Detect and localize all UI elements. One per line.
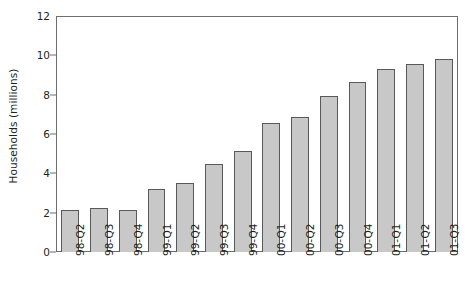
x-axis-tick-label: 99-Q1	[161, 224, 173, 256]
bar-slot	[61, 16, 79, 252]
y-axis-tick-label: 8	[26, 89, 50, 101]
y-axis-tick-labels: 024681012	[26, 0, 50, 252]
x-axis-tick-label-text: 01-Q1	[390, 224, 402, 256]
x-axis-tick-label-text: 99-Q3	[218, 224, 230, 256]
y-axis-tick-label: 4	[26, 167, 50, 179]
x-axis-tick-labels: 98-Q298-Q398-Q499-Q199-Q299-Q399-Q400-Q1…	[56, 252, 458, 304]
bar-slot	[291, 16, 309, 252]
y-axis-title: Households (millions)	[0, 0, 26, 252]
x-axis-tick-label-text: 99-Q4	[247, 224, 259, 256]
bar-slot	[349, 16, 367, 252]
x-axis-tick-label-text: 98-Q4	[132, 224, 144, 256]
x-axis-tick-label: 01-Q1	[390, 224, 402, 256]
bar-slot	[176, 16, 194, 252]
x-axis-tick-label: 98-Q2	[74, 224, 86, 256]
x-axis-tick-label-text: 00-Q3	[333, 224, 345, 256]
bar-slot	[406, 16, 424, 252]
x-axis-tick-label: 99-Q3	[218, 224, 230, 256]
x-axis-tick-label: 98-Q3	[103, 224, 115, 256]
x-axis-tick-label: 00-Q3	[333, 224, 345, 256]
bar-slot	[320, 16, 338, 252]
bar-slot	[205, 16, 223, 252]
bar-slot	[148, 16, 166, 252]
x-axis-tick-label: 00-Q1	[275, 224, 287, 256]
x-axis-tick-label-text: 01-Q3	[448, 224, 460, 256]
bar-slot	[435, 16, 453, 252]
x-axis-tick-label-text: 01-Q2	[419, 224, 431, 256]
bar-slot	[262, 16, 280, 252]
y-axis-tick-label: 2	[26, 207, 50, 219]
x-axis-tick-label: 00-Q2	[304, 224, 316, 256]
x-axis-tick-label: 00-Q4	[362, 224, 374, 256]
bar-chart-figure: Households (millions) 024681012 98-Q298-…	[0, 0, 469, 304]
x-axis-tick-label-text: 00-Q2	[304, 224, 316, 256]
x-axis-tick-label: 01-Q2	[419, 224, 431, 256]
y-axis-tick-label: 10	[26, 49, 50, 61]
x-axis-tick-label: 01-Q3	[448, 224, 460, 256]
bars-area	[56, 16, 458, 252]
y-axis-tick-label: 0	[26, 246, 50, 258]
x-axis-tick-label-text: 00-Q4	[362, 224, 374, 256]
x-axis-tick-label-text: 99-Q1	[161, 224, 173, 256]
x-axis-tick-label: 98-Q4	[132, 224, 144, 256]
bar-slot	[377, 16, 395, 252]
x-axis-tick-label-text: 98-Q3	[103, 224, 115, 256]
x-axis-tick-label-text: 00-Q1	[275, 224, 287, 256]
bar-slot	[90, 16, 108, 252]
x-axis-tick-label: 99-Q2	[189, 224, 201, 256]
bar-slot	[119, 16, 137, 252]
bar-slot	[234, 16, 252, 252]
x-axis-tick-label-text: 99-Q2	[189, 224, 201, 256]
y-axis-tick-label: 6	[26, 128, 50, 140]
y-axis-title-text: Households (millions)	[7, 68, 19, 183]
x-axis-tick-label-text: 98-Q2	[74, 224, 86, 256]
x-axis-tick-label: 99-Q4	[247, 224, 259, 256]
y-axis-tick-label: 12	[26, 10, 50, 22]
